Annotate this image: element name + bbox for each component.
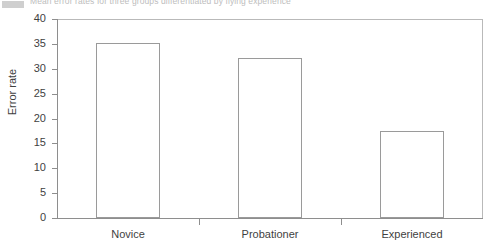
x-axis-tick-label: Novice xyxy=(57,228,199,240)
y-axis-tick-label: 15 xyxy=(0,137,46,148)
x-axis-line xyxy=(57,218,483,219)
figure-caption-text: Mean error rates for three groups differ… xyxy=(30,0,291,6)
y-axis-tick-label: 0 xyxy=(0,212,46,223)
y-axis-tick xyxy=(52,19,57,20)
caption-marker-box xyxy=(2,1,24,8)
bar-experienced xyxy=(380,131,444,218)
x-axis-tick-label: Probationer xyxy=(199,228,341,240)
x-axis-group-separator xyxy=(341,218,342,225)
y-axis-tick-label: 20 xyxy=(0,113,46,124)
y-axis-tick xyxy=(52,69,57,70)
y-axis-tick xyxy=(52,143,57,144)
y-axis-tick xyxy=(52,193,57,194)
y-axis-tick xyxy=(52,119,57,120)
bar-novice xyxy=(96,43,160,218)
y-axis-line xyxy=(57,19,58,219)
x-axis-group-separator xyxy=(199,218,200,225)
y-axis-tick xyxy=(52,44,57,45)
bar-probationer xyxy=(238,58,302,218)
y-axis-tick-label: 30 xyxy=(0,63,46,74)
y-axis-tick-label: 40 xyxy=(0,13,46,24)
y-axis-tick xyxy=(52,94,57,95)
y-axis-tick xyxy=(52,218,57,219)
bar-chart-figure: Mean error rates for three groups differ… xyxy=(0,0,494,247)
y-axis-tick xyxy=(52,168,57,169)
y-axis-tick-label: 25 xyxy=(0,88,46,99)
figure-caption-strip: Mean error rates for three groups differ… xyxy=(0,0,494,10)
y-axis-tick-label: 10 xyxy=(0,162,46,173)
y-axis-tick-label: 35 xyxy=(0,38,46,49)
x-axis-tick-label: Experienced xyxy=(341,228,483,240)
y-axis-tick-label: 5 xyxy=(0,187,46,198)
